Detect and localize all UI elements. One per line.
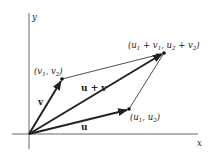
point-u [127,107,131,111]
vector-u-label: u [81,122,88,132]
parallelogram-side-right [129,53,164,109]
point-v-label: (v1, v2) [34,66,63,77]
vector-v-label: v [37,97,44,107]
vector-v [29,81,61,134]
point-u-label: (u1, u2) [130,112,160,123]
x-axis-label: x [197,138,202,148]
point-sum-label: (u1 + v1, u2 + v2) [128,40,200,51]
vector-sum-label: u + v [81,83,107,93]
point-v [60,77,64,81]
y-axis-label: y [31,12,37,22]
parallelogram-side-top [62,54,161,79]
vector-addition-diagram: y x v u + v u (v1, v2) (u1, u2) (u1 + v1… [0,0,212,154]
vector-u [29,110,127,134]
point-sum [162,51,166,55]
